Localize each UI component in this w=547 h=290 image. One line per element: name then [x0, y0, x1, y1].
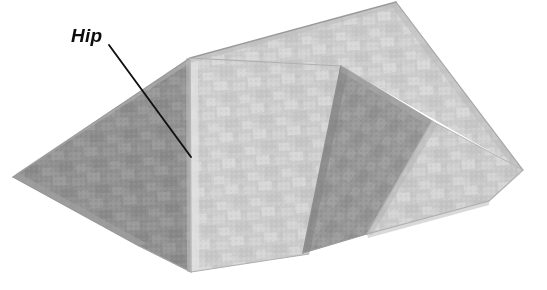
hip-annotation-label: Hip [71, 26, 102, 45]
roof-surface-left-hip-slope [13, 58, 191, 272]
figure-container: Hip [0, 0, 547, 290]
